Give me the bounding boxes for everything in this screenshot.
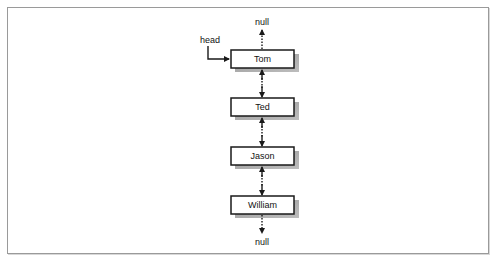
node-tom: Tom xyxy=(231,50,299,72)
linked-list-diagram: null head Tom Ted Jason xyxy=(0,0,496,263)
node-ted: Ted xyxy=(231,98,299,120)
head-label: head xyxy=(200,35,220,45)
node-label: William xyxy=(248,200,277,210)
node-label: Ted xyxy=(255,102,270,112)
node-label: Tom xyxy=(254,54,271,64)
null-top-label: null xyxy=(255,17,269,27)
node-label: Jason xyxy=(250,151,274,161)
null-bottom-label: null xyxy=(255,237,269,247)
node-jason: Jason xyxy=(231,147,299,169)
head-pointer-arrow xyxy=(208,46,229,59)
node-william: William xyxy=(231,196,299,218)
